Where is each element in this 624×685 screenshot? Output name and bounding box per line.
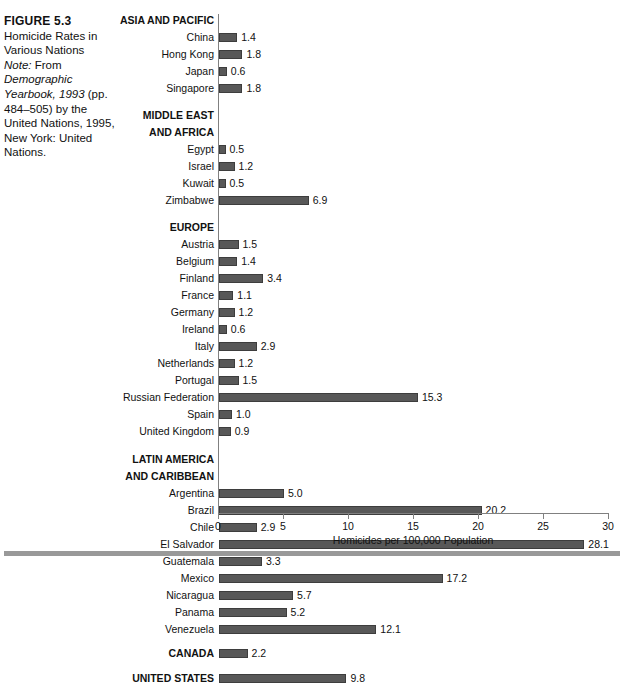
bar-value-label: 6.9 [313,194,328,207]
row-label: Guatemala [14,555,214,568]
bar-value-label: 5.7 [297,589,312,602]
row-label: China [14,31,214,44]
bar [219,557,262,566]
chart-row: Panama5.2 [0,606,624,619]
bar-value-label: 1.0 [236,408,251,421]
row-label: CANADA [14,647,214,660]
bar [219,625,376,634]
row-label: Italy [14,340,214,353]
bar [219,410,232,419]
chart-row: Venezuela12.1 [0,623,624,636]
row-label: Japan [14,65,214,78]
chart-row: France1.1 [0,289,624,302]
bar-value-label: 1.4 [241,255,256,268]
chart-row: Egypt0.5 [0,143,624,156]
bar [219,342,257,351]
bar-value-label: 1.5 [243,238,258,251]
row-label: El Salvador [14,538,214,551]
row-label: Austria [14,238,214,251]
row-label: Finland [14,272,214,285]
bar [219,50,242,59]
bar-value-label: 1.2 [239,160,254,173]
row-label: Germany [14,306,214,319]
bar [219,308,235,317]
bar-value-label: 1.8 [246,48,261,61]
chart-row: Italy2.9 [0,340,624,353]
chart-row: Kuwait0.5 [0,177,624,190]
bar [219,393,418,402]
bar [219,608,287,617]
row-label: Singapore [14,82,214,95]
bar-value-label: 1.8 [246,82,261,95]
bar-value-label: 2.9 [261,521,276,534]
row-label: Ireland [14,323,214,336]
chart-row: Brazil20.2 [0,504,624,517]
row-label: United Kingdom [14,425,214,438]
x-tick-label: 25 [537,520,549,532]
bar [219,145,226,154]
row-label: Kuwait [14,177,214,190]
x-tick-label: 30 [602,520,614,532]
row-label: Panama [14,606,214,619]
x-tick-label: 0 [215,520,221,532]
bar-value-label: 0.6 [231,323,246,336]
chart-row: Belgium1.4 [0,255,624,268]
group-heading: EUROPE [14,221,214,234]
chart-row: Germany1.2 [0,306,624,319]
bar-value-label: 3.3 [266,555,281,568]
x-tick-mark [478,513,479,519]
row-label: Belgium [14,255,214,268]
bar [219,162,235,171]
row-label: Chile [14,521,214,534]
chart-row: Argentina5.0 [0,487,624,500]
chart-row: Netherlands1.2 [0,357,624,370]
row-label: Israel [14,160,214,173]
row-label: Mexico [14,572,214,585]
chart-row: Hong Kong1.8 [0,48,624,61]
x-tick-mark [608,513,609,519]
x-tick-mark [218,513,219,519]
chart-row: CANADA2.2 [0,647,624,660]
group-heading: MIDDLE EAST [14,109,214,122]
chart-row: Mexico17.2 [0,572,624,585]
group-heading: ASIA AND PACIFIC [14,14,214,27]
chart-row: Portugal1.5 [0,374,624,387]
group-heading: LATIN AMERICA [14,453,214,466]
row-label: Brazil [14,504,214,517]
bar [219,67,227,76]
bar-value-label: 3.4 [267,272,282,285]
x-tick-mark [283,513,284,519]
bar [219,523,257,532]
bar-value-label: 2.9 [261,340,276,353]
chart-row: UNITED STATES9.8 [0,672,624,685]
x-tick-label: 15 [407,520,419,532]
bar [219,591,293,600]
bar-value-label: 20.2 [486,504,506,517]
bar [219,84,242,93]
x-tick-label: 5 [280,520,286,532]
bar-value-label: 1.2 [239,357,254,370]
bar [219,291,233,300]
bar-value-label: 15.3 [422,391,442,404]
bar-value-label: 17.2 [447,572,467,585]
bar [219,33,237,42]
chart-row: Spain1.0 [0,408,624,421]
x-tick-mark [543,513,544,519]
bar-value-label: 0.9 [235,425,250,438]
chart-row: Guatemala3.3 [0,555,624,568]
bar [219,257,237,266]
x-tick-mark [348,513,349,519]
chart-row: Singapore1.8 [0,82,624,95]
row-label: Russian Federation [14,391,214,404]
bar-value-label: 0.6 [231,65,246,78]
bar [219,376,239,385]
group-heading: AND CARIBBEAN [14,470,214,483]
row-label: Spain [14,408,214,421]
chart-row: Finland3.4 [0,272,624,285]
bar-value-label: 0.5 [230,143,245,156]
bar-value-label: 9.8 [350,672,365,685]
x-tick-mark [413,513,414,519]
chart-row: United Kingdom0.9 [0,425,624,438]
bar [219,649,248,658]
